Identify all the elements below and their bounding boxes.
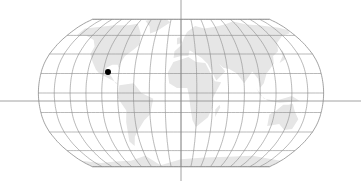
world-map[interactable] — [0, 0, 361, 181]
map-canvas[interactable] — [0, 0, 361, 181]
location-marker-icon[interactable] — [105, 69, 111, 75]
